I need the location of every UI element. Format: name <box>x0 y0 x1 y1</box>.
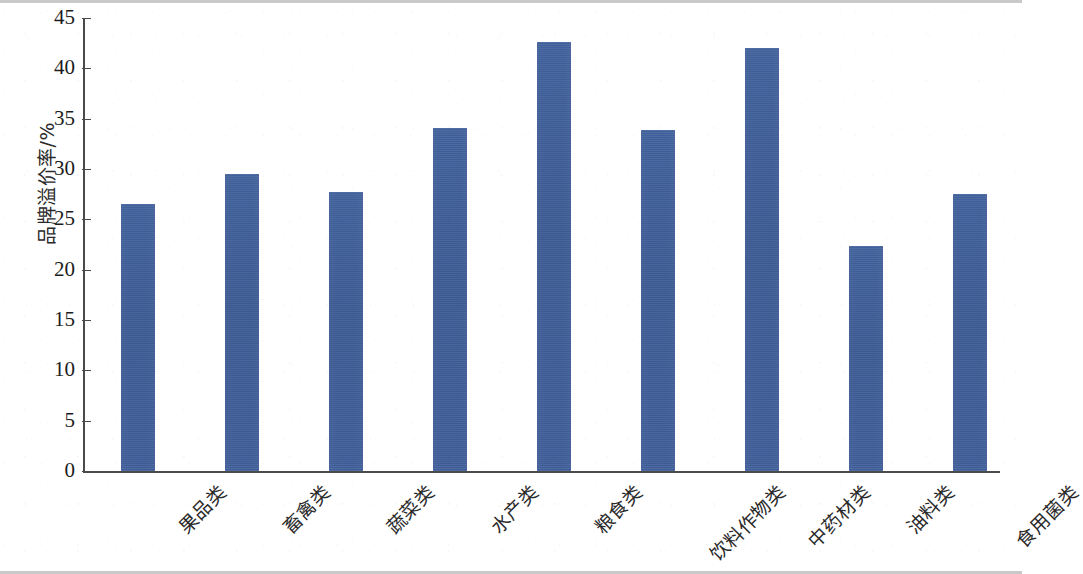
y-axis-tick-label: 25 <box>35 208 75 229</box>
bar <box>953 194 987 471</box>
y-axis-line <box>83 18 85 471</box>
bar <box>745 48 779 471</box>
y-axis-tick <box>82 270 91 271</box>
x-axis-tick-label: 果品类 <box>171 478 231 538</box>
bar <box>849 246 883 471</box>
y-axis-tick-label: 20 <box>35 259 75 280</box>
y-axis-tick <box>82 320 91 321</box>
y-axis-tick-label: 30 <box>35 158 75 179</box>
plot-area: 051015202530354045 <box>83 18 1000 471</box>
bar <box>121 204 155 471</box>
x-axis-tick-label: 食用菌类 <box>1009 478 1083 552</box>
bar <box>329 192 363 471</box>
y-axis-tick <box>82 68 91 69</box>
y-axis-tick-label: 35 <box>35 108 75 129</box>
bar <box>225 174 259 471</box>
y-axis-tick-label: 5 <box>35 410 75 431</box>
y-axis-tick <box>82 421 91 422</box>
scan-edge-top <box>0 0 1022 3</box>
x-axis-tick-label: 蔬菜类 <box>379 478 439 538</box>
y-axis-tick-label: 40 <box>35 57 75 78</box>
y-axis-tick <box>82 370 91 371</box>
y-axis-tick-label: 0 <box>35 460 75 481</box>
x-axis-line <box>83 471 1000 473</box>
x-axis-tick-label: 粮食类 <box>587 478 647 538</box>
y-axis-tick <box>82 471 91 472</box>
y-axis-tick-label: 45 <box>35 7 75 28</box>
bar <box>641 130 675 471</box>
y-axis-tick <box>82 169 91 170</box>
x-axis-tick-label: 饮料作物类 <box>703 478 791 566</box>
bar <box>537 42 571 471</box>
y-axis-tick <box>82 219 91 220</box>
y-axis-tick-label: 15 <box>35 309 75 330</box>
y-axis-tick <box>82 18 91 19</box>
y-axis-tick <box>82 119 91 120</box>
x-axis-tick-label: 油料类 <box>899 478 959 538</box>
x-axis-tick-label: 中药材类 <box>801 478 875 552</box>
x-axis-tick-label: 水产类 <box>483 478 543 538</box>
bar <box>433 128 467 471</box>
y-axis-tick-label: 10 <box>35 359 75 380</box>
x-axis-tick-label: 畜禽类 <box>275 478 335 538</box>
